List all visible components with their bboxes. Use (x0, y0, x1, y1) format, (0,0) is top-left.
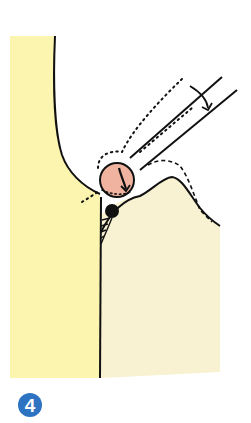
root-outline (100, 197, 101, 378)
scaling-diagram (0, 0, 251, 423)
subgingival-deposit (105, 204, 119, 218)
tooth-surface (10, 36, 101, 378)
step-number: 4 (25, 396, 36, 415)
step-number-badge: 4 (18, 393, 42, 417)
instrument-shank-lower (140, 90, 237, 170)
instrument-shank-upper (130, 77, 222, 158)
